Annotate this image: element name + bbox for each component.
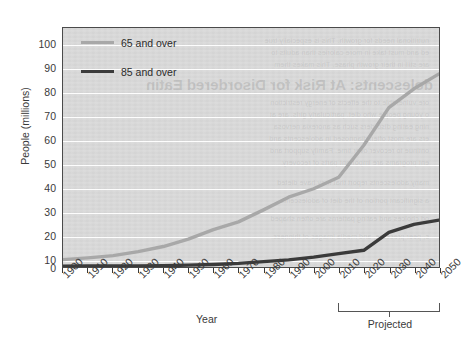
plot-area: dolescents: At Risk for Disordered Eatin… — [62, 27, 440, 268]
y-tick-30: 30 — [30, 207, 56, 218]
y-tick-60: 60 — [30, 135, 56, 146]
chart-figure: 100 90 80 70 60 50 40 30 20 10 0 People … — [0, 0, 463, 347]
legend-swatch-icon — [81, 70, 114, 73]
legend-label: 65 and over — [121, 37, 176, 49]
legend-swatch-icon — [81, 41, 114, 44]
y-tick-20: 20 — [30, 231, 56, 242]
y-tick-90: 90 — [30, 63, 56, 74]
y-tick-100: 100 — [30, 39, 56, 50]
x-tick-label-2050: 2050 — [438, 255, 463, 280]
legend-label: 85 and over — [121, 66, 176, 78]
y-tick-40: 40 — [30, 183, 56, 194]
projected-label: Projected — [347, 318, 433, 330]
y-axis-title: People (millions) — [19, 61, 31, 191]
y-tick-50: 50 — [30, 159, 56, 170]
y-tick-80: 80 — [30, 87, 56, 98]
series-line-65-and-over — [63, 74, 439, 260]
legend-item-65-and-over: 65 and over — [81, 34, 176, 51]
projected-bracket-tick — [389, 311, 390, 317]
chart-legend: 65 and over 85 and over — [81, 34, 176, 80]
legend-item-85-and-over: 85 and over — [81, 63, 176, 80]
y-tick-70: 70 — [30, 111, 56, 122]
x-axis-title: Year — [196, 313, 217, 325]
y-tick-0: 0 — [30, 263, 56, 274]
